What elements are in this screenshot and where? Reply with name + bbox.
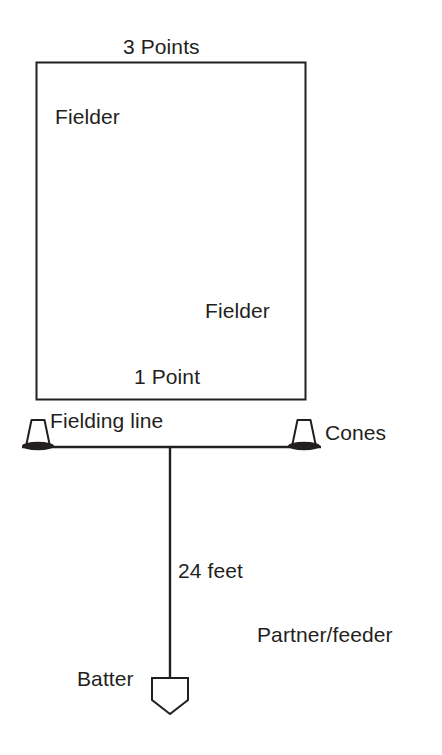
label-fielder-bottom: Fielder — [205, 300, 270, 321]
label-fielder-top: Fielder — [55, 106, 120, 127]
label-batter: Batter — [77, 668, 134, 689]
home-plate-icon — [152, 678, 188, 714]
label-distance: 24 feet — [178, 560, 243, 581]
label-fielding-line: Fielding line — [50, 410, 163, 431]
fielding-diagram: 3 Points Fielder Fielder 1 Point Fieldin… — [0, 0, 442, 755]
cone-right-icon — [288, 420, 320, 450]
label-partner-feeder: Partner/feeder — [257, 624, 393, 645]
label-one-point: 1 Point — [134, 366, 200, 387]
label-cones: Cones — [325, 422, 386, 443]
label-three-points: 3 Points — [123, 36, 200, 57]
